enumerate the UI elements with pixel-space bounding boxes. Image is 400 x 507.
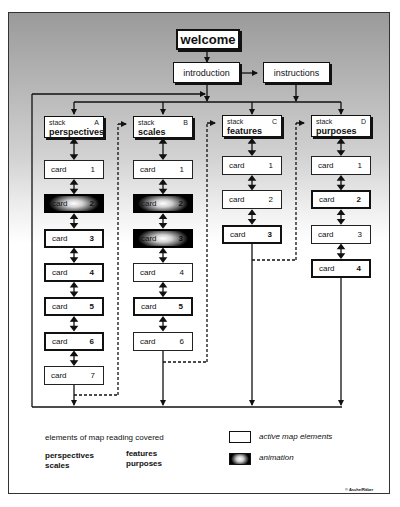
legend-title: elements of map reading covered [45, 433, 164, 442]
legend-swatch-animation [229, 453, 251, 465]
welcome-label: welcome [181, 32, 236, 47]
card-label: card [51, 371, 67, 380]
card-b-5[interactable]: card5 [133, 297, 193, 316]
card-c-2[interactable]: card2 [222, 190, 282, 209]
stack-c-letter: C [272, 118, 277, 125]
card-a-3[interactable]: card3 [44, 229, 104, 248]
card-number: 3 [358, 230, 362, 239]
legend-label-animation: animation [259, 453, 294, 462]
card-number: 1 [91, 165, 95, 174]
card-d-1[interactable]: card1 [311, 156, 371, 175]
card-label: card [318, 230, 334, 239]
stack-a-letter: A [94, 119, 99, 126]
introduction-box[interactable]: introduction [173, 62, 240, 83]
stack-b-letter: B [183, 119, 188, 126]
introduction-label: introduction [183, 68, 230, 78]
instructions-label: instructions [274, 68, 320, 78]
card-number: 3 [268, 230, 272, 239]
card-label: card [52, 234, 68, 243]
card-d-2[interactable]: card2 [311, 190, 371, 209]
stack-d-box[interactable]: stackD purposes [311, 115, 371, 137]
stack-a-name: perspectives [49, 128, 99, 137]
card-number: 4 [90, 268, 94, 277]
card-b-2[interactable]: card2 [133, 194, 193, 213]
card-number: 7 [91, 371, 95, 380]
card-label: card [52, 268, 68, 277]
card-number: 2 [269, 195, 273, 204]
legend-swatch-active [229, 431, 251, 443]
card-c-1[interactable]: card1 [222, 156, 282, 175]
card-label: card [229, 195, 245, 204]
stack-b-box[interactable]: stackB scales [133, 116, 193, 138]
stack-a-prefix: stack [49, 119, 65, 126]
card-number: 6 [90, 337, 94, 346]
card-label: card [51, 165, 67, 174]
stack-a-box[interactable]: stackA perspectives [44, 116, 104, 138]
card-a-1[interactable]: card1 [44, 160, 104, 179]
card-label: card [141, 302, 157, 311]
card-a-2[interactable]: card2 [44, 194, 104, 213]
card-number: 1 [358, 161, 362, 170]
instructions-box[interactable]: instructions [263, 62, 330, 83]
stack-c-prefix: stack [227, 118, 243, 125]
card-number: 6 [180, 337, 184, 346]
card-a-4[interactable]: card4 [44, 263, 104, 282]
card-a-5[interactable]: card5 [44, 297, 104, 316]
card-label: card [140, 165, 156, 174]
card-label: card [141, 234, 157, 243]
stack-d-name: purposes [316, 127, 366, 136]
card-number: 3 [179, 234, 183, 243]
card-number: 3 [90, 234, 94, 243]
card-label: card [52, 199, 68, 208]
card-label: card [140, 337, 156, 346]
card-label: card [229, 161, 245, 170]
card-label: card [141, 199, 157, 208]
stack-b-name: scales [138, 128, 188, 137]
card-label: card [52, 337, 68, 346]
stack-b-prefix: stack [138, 119, 154, 126]
card-c-3[interactable]: card3 [222, 225, 282, 244]
legend-element-features: features [126, 449, 157, 458]
card-b-3[interactable]: card3 [133, 229, 193, 248]
card-d-3[interactable]: card3 [311, 225, 371, 244]
card-a-6[interactable]: card6 [44, 332, 104, 351]
welcome-box[interactable]: welcome [176, 29, 240, 50]
card-number: 2 [357, 195, 361, 204]
stack-c-name: features [227, 127, 277, 136]
stack-d-letter: D [361, 118, 366, 125]
card-b-4[interactable]: card4 [133, 263, 193, 282]
card-label: card [140, 268, 156, 277]
card-number: 5 [179, 302, 183, 311]
card-number: 5 [90, 302, 94, 311]
card-a-7[interactable]: card7 [44, 366, 104, 385]
card-label: card [319, 195, 335, 204]
stack-c-box[interactable]: stackC features [222, 115, 282, 137]
card-number: 4 [180, 268, 184, 277]
card-label: card [230, 230, 246, 239]
card-label: card [52, 302, 68, 311]
legend-element-purposes: purposes [126, 459, 162, 468]
card-b-1[interactable]: card1 [133, 160, 193, 179]
legend-element-perspectives: perspectives [45, 451, 94, 460]
card-number: 2 [90, 199, 94, 208]
card-b-6[interactable]: card6 [133, 332, 193, 351]
stack-d-prefix: stack [316, 118, 332, 125]
copyright-text: © Asche/Räber [345, 487, 373, 492]
card-label: card [318, 161, 334, 170]
card-label: card [319, 264, 335, 273]
card-number: 1 [180, 165, 184, 174]
legend-label-active: active map elements [259, 432, 332, 441]
card-number: 2 [179, 199, 183, 208]
card-d-4[interactable]: card4 [311, 259, 371, 278]
card-number: 4 [357, 264, 361, 273]
legend-element-scales: scales [45, 461, 69, 470]
card-number: 1 [269, 161, 273, 170]
